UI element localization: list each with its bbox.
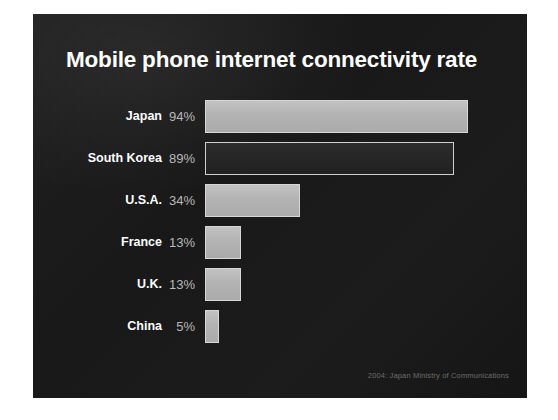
bar (205, 100, 468, 133)
bar-category-label: France (33, 226, 162, 259)
bar-chart-plot-area: Japan94%South Korea89%U.S.A.34%France13%… (33, 100, 527, 370)
bar-track (205, 184, 485, 217)
bar-value-label: 13% (166, 226, 195, 259)
bar-row: U.K.13% (33, 268, 527, 301)
bar-value-label: 34% (166, 184, 195, 217)
bar-value-label: 13% (166, 268, 195, 301)
bar-category-label: U.K. (33, 268, 162, 301)
bar-row: U.S.A.34% (33, 184, 527, 217)
bar (205, 142, 454, 175)
bar-category-label: U.S.A. (33, 184, 162, 217)
bar (205, 268, 241, 301)
bar-track (205, 100, 485, 133)
bar (205, 226, 241, 259)
bar (205, 310, 219, 343)
bar-value-label: 89% (166, 142, 195, 175)
bar-row: Japan94% (33, 100, 527, 133)
bar-category-label: China (33, 310, 162, 343)
bar (205, 184, 300, 217)
page-title: Mobile phone internet connectivity rate (66, 47, 496, 73)
bar-row: South Korea89% (33, 142, 527, 175)
bar-value-label: 94% (166, 100, 195, 133)
bar-track (205, 268, 485, 301)
bar-row: France13% (33, 226, 527, 259)
bar-value-label: 5% (166, 310, 195, 343)
source-attribution: 2004: Japan Ministry of Communications (368, 371, 509, 380)
bar-track (205, 310, 485, 343)
bar-row: China5% (33, 310, 527, 343)
bar-track (205, 226, 485, 259)
bar-track (205, 142, 485, 175)
slide-frame: Mobile phone internet connectivity rate … (33, 14, 527, 398)
bar-category-label: Japan (33, 100, 162, 133)
bar-category-label: South Korea (33, 142, 162, 175)
